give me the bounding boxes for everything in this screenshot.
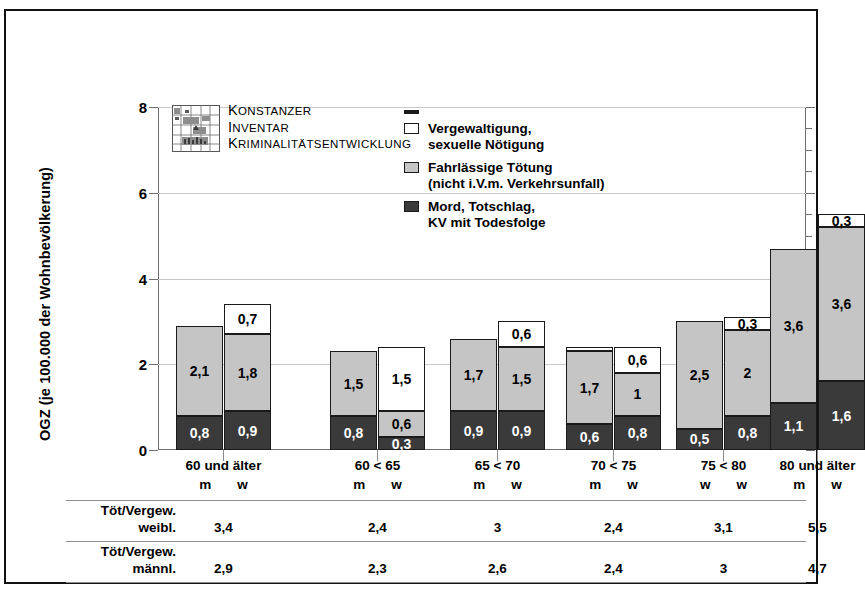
bar[interactable]: 0,91,80,7 [224,304,271,450]
legend-label-line-2: sexuelle Nötigung [428,137,544,153]
bar-segment[interactable]: 3,6 [770,249,817,403]
dash-marker-icon [404,110,419,114]
bar-segment[interactable]: 1,5 [378,347,425,411]
bar[interactable]: 1,13,6 [770,249,817,451]
bar-segment[interactable]: 0,6 [498,321,545,347]
y-tick-mark [149,450,158,451]
bar[interactable]: 0,81,5 [330,351,377,450]
x-sex-label: m [473,477,485,492]
y-tick-mark [149,107,158,108]
table-rule [66,541,806,542]
data-table: Töt/Vergew.weibl.3,42,432,43,15,5Töt/Ver… [6,500,820,580]
bar-segment[interactable]: 0,9 [224,411,271,450]
bar-segment[interactable]: 1,6 [818,381,865,450]
legend-label-line-1: Mord, Totschlag, [428,199,546,215]
bar-segment[interactable]: 0,6 [614,347,661,373]
legend-item[interactable]: Fahrlässige Tötung(nicht i.V.m. Verkehrs… [404,160,724,192]
bar[interactable]: 0,61,7 [566,347,613,450]
x-group-label: 65 < 70mw [450,458,545,492]
table-cell: 2,6 [468,561,528,576]
bar[interactable]: 0,820,3 [724,317,771,450]
bar-segment[interactable]: 1,5 [330,351,377,415]
legend-item[interactable]: Mord, Totschlag,KV mit Todesfolge [404,199,724,231]
bar[interactable]: 0,91,50,6 [498,321,545,450]
kik-line-1-cap: K [228,102,238,118]
x-sex-labels: mw [566,477,661,492]
bar-segment[interactable]: 0,8 [614,416,661,450]
bar-segment[interactable]: 2,5 [676,321,723,428]
bar-segment[interactable]: 0,3 [378,437,425,450]
x-sex-label: w [737,477,748,492]
bar-segment[interactable]: 0,6 [566,424,613,450]
bar-segment[interactable]: 0,8 [330,416,377,450]
bar[interactable]: 0,52,5 [676,321,723,450]
bar-segment[interactable]: 2,1 [176,326,223,416]
legend-label-line-2: KV mit Todesfolge [428,215,546,231]
x-category-label: 75 < 80 [676,458,771,473]
legend-label: Fahrlässige Tötung(nicht i.V.m. Verkehrs… [428,160,605,192]
bar-segment[interactable]: 2 [724,330,771,416]
x-sex-labels: mw [330,477,425,492]
table-row-values: 2,92,32,62,434,7 [158,543,806,581]
x-sex-label: w [627,477,638,492]
bar-segment[interactable]: 1,7 [566,351,613,424]
bar-segment[interactable]: 0,9 [450,411,497,450]
bar-segment[interactable]: 1,1 [770,403,817,450]
bar-segment[interactable]: 0,3 [818,214,865,227]
legend-item[interactable] [404,104,724,114]
bar[interactable]: 0,91,7 [450,339,497,450]
bar-segment[interactable]: 1,7 [450,339,497,412]
bar-segment[interactable]: 0,5 [676,429,723,450]
y-tick-label: 8 [117,99,147,116]
x-sex-labels: mw [176,477,271,492]
x-group-label: 60 < 65mw [330,458,425,492]
table-row-values: 3,42,432,43,15,5 [158,502,806,540]
kik-line-3-rest: RIMINALITÄTSENTWICKLUNG [238,138,411,150]
x-sex-label: m [793,477,805,492]
kik-line-2-rest: NVENTAR [232,122,289,134]
legend-item[interactable]: Vergewaltigung,sexuelle Nötigung [404,121,724,153]
y-tick-mark-right [806,450,815,451]
gray-square-icon [404,162,419,173]
legend-label: Vergewaltigung,sexuelle Nötigung [428,121,544,153]
bar-segment[interactable] [566,347,613,351]
kik-line-3-cap: K [228,135,238,151]
bar[interactable]: 0,82,1 [176,326,223,450]
legend-label-line-1: Vergewaltigung, [428,121,544,137]
kik-line-2: INVENTAR [228,120,411,137]
x-sex-label: w [831,477,842,492]
bar-segment[interactable]: 0,3 [724,317,771,330]
kik-line-1: KONSTANZER [228,103,411,120]
bar-segment[interactable]: 3,6 [818,227,865,381]
bar-segment[interactable]: 0,8 [176,416,223,450]
bar-segment[interactable]: 1 [614,373,661,416]
x-category-label: 65 < 70 [450,458,545,473]
table-cell: 2,4 [584,520,644,535]
table-cell: 3,1 [694,520,754,535]
table-cell: 2,4 [584,561,644,576]
x-group-label: 70 < 75mw [566,458,661,492]
x-group-label: 80 und ältermw [770,458,865,492]
dark-square-icon [404,201,419,212]
bar-segment[interactable]: 0,9 [498,411,545,450]
x-sex-label: m [199,477,211,492]
table-rule [66,582,806,583]
bar-segment[interactable]: 0,6 [378,411,425,437]
x-axis-labels: 60 und ältermw60 < 65mw65 < 70mw70 < 75m… [158,458,806,500]
bar[interactable]: 1,63,60,3 [818,214,865,450]
bar-group: 1,13,61,63,60,3 [770,107,865,450]
bar[interactable]: 0,30,61,5 [378,347,425,450]
table-cell: 2,3 [348,561,408,576]
bar[interactable]: 0,810,6 [614,347,661,450]
bar-segment[interactable]: 0,7 [224,304,271,334]
bar-segment[interactable]: 1,8 [224,334,271,411]
bar-segment[interactable]: 0,8 [724,416,771,450]
chart-legend: Vergewaltigung,sexuelle NötigungFahrläss… [404,104,724,238]
x-sex-labels: mw [770,477,865,492]
legend-label: Mord, Totschlag,KV mit Todesfolge [428,199,546,231]
y-tick-mark [149,193,158,194]
table-row-maennlich: Töt/Vergew.männl.2,92,32,62,434,7 [6,543,820,581]
y-tick-mark [149,279,158,280]
bar-segment[interactable]: 1,5 [498,347,545,411]
table-cell: 3 [694,561,754,576]
